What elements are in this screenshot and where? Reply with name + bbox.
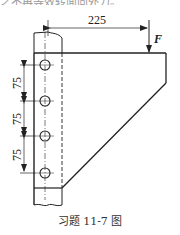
bracket-diagram: 75 75 75 225 F bbox=[0, 0, 180, 235]
bracket-plate bbox=[34, 53, 166, 188]
force-label: F bbox=[153, 32, 162, 46]
dim-225: 225 bbox=[88, 13, 106, 27]
dim-75-2: 75 bbox=[10, 113, 24, 125]
column bbox=[34, 32, 62, 206]
figure-caption: 习题 11-7 图 bbox=[0, 212, 180, 228]
dim-75-3: 75 bbox=[10, 149, 24, 161]
dim-75-1: 75 bbox=[10, 77, 24, 89]
